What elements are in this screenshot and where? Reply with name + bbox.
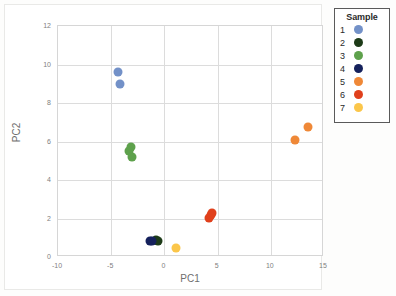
scatter-plot-figure: PC2 024681012 -10-5051015 PC1 Sample 123… xyxy=(0,0,396,296)
legend-item-6[interactable]: 6 xyxy=(335,88,389,101)
y-axis-title: PC2 xyxy=(11,113,22,153)
legend-item-5[interactable]: 5 xyxy=(335,75,389,88)
data-point-sample-6 xyxy=(208,208,217,217)
legend-item-3[interactable]: 3 xyxy=(335,49,389,62)
x-tick-label: 5 xyxy=(205,262,229,269)
y-tick-label: 4 xyxy=(27,176,51,183)
legend-items: 1234567 xyxy=(335,23,389,114)
gridline-vertical xyxy=(111,26,112,255)
gridline-vertical xyxy=(271,26,272,255)
y-tick-label: 10 xyxy=(27,60,51,67)
x-tick-label: -5 xyxy=(98,262,122,269)
legend-title: Sample xyxy=(335,12,389,22)
legend-item-label: 6 xyxy=(340,90,354,100)
data-point-sample-7 xyxy=(171,243,180,252)
x-tick-label: 10 xyxy=(258,262,282,269)
data-point-sample-4 xyxy=(148,236,157,245)
legend-item-7[interactable]: 7 xyxy=(335,101,389,114)
y-tick-label: 2 xyxy=(27,214,51,221)
chart-card: PC2 024681012 -10-5051015 PC1 xyxy=(4,4,322,290)
legend-swatch-icon xyxy=(354,77,363,86)
y-tick-label: 6 xyxy=(27,137,51,144)
legend-swatch-icon xyxy=(354,38,363,47)
legend-item-label: 4 xyxy=(340,64,354,74)
legend-swatch-icon xyxy=(354,64,363,73)
y-tick-label: 8 xyxy=(27,99,51,106)
x-tick-label: -10 xyxy=(45,262,69,269)
legend-swatch-icon xyxy=(354,25,363,34)
data-point-sample-1 xyxy=(116,80,125,89)
legend-item-4[interactable]: 4 xyxy=(335,62,389,75)
data-point-sample-3 xyxy=(127,152,136,161)
legend-swatch-icon xyxy=(354,103,363,112)
x-tick-label: 15 xyxy=(311,262,335,269)
legend-swatch-icon xyxy=(354,90,363,99)
x-tick-label: 0 xyxy=(151,262,175,269)
legend-swatch-icon xyxy=(354,51,363,60)
legend-item-label: 7 xyxy=(340,103,354,113)
gridline-horizontal xyxy=(58,142,322,143)
plot-area xyxy=(57,25,323,256)
gridline-horizontal xyxy=(58,180,322,181)
gridline-horizontal xyxy=(58,219,322,220)
data-point-sample-1 xyxy=(114,67,123,76)
y-tick-label: 0 xyxy=(27,253,51,260)
legend-item-label: 3 xyxy=(340,51,354,61)
legend-item-label: 5 xyxy=(340,77,354,87)
data-point-sample-5 xyxy=(304,123,313,132)
legend-item-2[interactable]: 2 xyxy=(335,36,389,49)
y-tick-label: 12 xyxy=(27,22,51,29)
gridline-vertical xyxy=(218,26,219,255)
gridline-horizontal xyxy=(58,65,322,66)
gridline-vertical xyxy=(164,26,165,255)
x-axis-title: PC1 xyxy=(57,273,323,284)
legend-item-1[interactable]: 1 xyxy=(335,23,389,36)
data-point-sample-5 xyxy=(291,135,300,144)
legend-item-label: 1 xyxy=(340,25,354,35)
legend-item-label: 2 xyxy=(340,38,354,48)
gridline-horizontal xyxy=(58,103,322,104)
legend: Sample 1234567 xyxy=(334,8,390,123)
